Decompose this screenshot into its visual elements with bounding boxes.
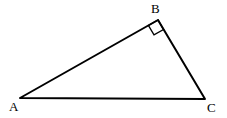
triangle-diagram: A B C (0, 0, 227, 118)
triangle-outline (20, 20, 205, 99)
vertex-label-a: A (9, 100, 18, 113)
vertex-label-b: B (151, 2, 160, 15)
vertex-label-c: C (207, 101, 216, 114)
triangle-canvas (0, 0, 227, 118)
